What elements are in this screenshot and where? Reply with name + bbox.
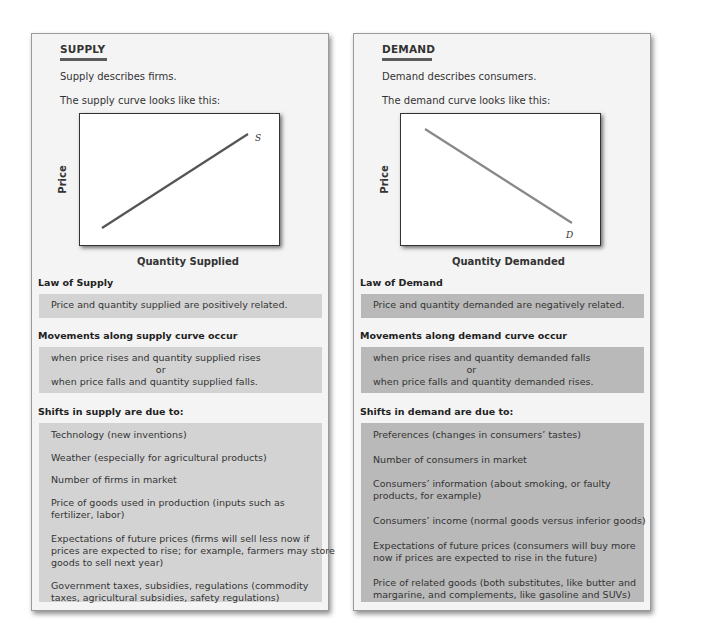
shift-item: margarine, and complements, like gasolin… xyxy=(373,589,631,600)
movement-or: or xyxy=(39,364,282,375)
demand-curve-intro: The demand curve looks like this: xyxy=(382,95,550,106)
movement-line: when price falls and quantity demanded r… xyxy=(373,376,593,387)
shift-item: Government taxes, subsidies, regulations… xyxy=(51,580,308,591)
movement-line: when price rises and quantity demanded f… xyxy=(373,352,590,363)
supply-curve-intro: The supply curve looks like this: xyxy=(60,95,220,106)
demand-shifts-heading: Shifts in demand are due to: xyxy=(360,406,513,417)
title-underline xyxy=(60,58,107,61)
supply-y-axis-label: Price xyxy=(57,165,68,193)
shift-item: now if prices are expected to rise in th… xyxy=(373,552,597,563)
demand-movements-box: when price rises and quantity demanded f… xyxy=(361,347,644,393)
shift-item: Price of goods used in production (input… xyxy=(51,497,285,508)
shift-item: goods to sell next year) xyxy=(51,557,163,568)
shift-item: Preferences (changes in consumers’ taste… xyxy=(373,429,581,440)
shift-item: Expectations of future prices (consumers… xyxy=(373,540,636,551)
shift-item: Expectations of future prices (firms wil… xyxy=(51,533,309,544)
demand-description: Demand describes consumers. xyxy=(382,71,536,82)
movement-line: when price falls and quantity supplied f… xyxy=(51,376,258,387)
shift-item: Number of consumers in market xyxy=(373,454,527,465)
demand-x-axis-label: Quantity Demanded xyxy=(452,256,565,267)
law-of-demand-box: Price and quantity demanded are negative… xyxy=(361,294,644,318)
demand-movements-heading: Movements along demand curve occur xyxy=(360,330,567,341)
law-of-demand-text: Price and quantity demanded are negative… xyxy=(373,299,624,310)
shift-item: Number of firms in market xyxy=(51,474,177,485)
demand-shifts-box: Preferences (changes in consumers’ taste… xyxy=(361,423,644,602)
shift-item: products, for example) xyxy=(373,490,481,501)
supply-curve-label: S xyxy=(255,133,261,143)
supply-shifts-box: Technology (new inventions) Weather (esp… xyxy=(39,423,322,602)
shift-item: Price of related goods (both substitutes… xyxy=(373,577,636,588)
demand-chart: D xyxy=(400,113,601,246)
title-underline xyxy=(382,58,432,61)
law-of-supply-box: Price and quantity supplied are positive… xyxy=(39,294,322,318)
shift-item: fertilizer, labor) xyxy=(51,509,124,520)
shift-item: Weather (especially for agricultural pro… xyxy=(51,452,267,463)
demand-curve-label: D xyxy=(565,230,573,240)
shift-item: Consumers’ income (normal goods versus i… xyxy=(373,515,646,526)
movement-or: or xyxy=(361,364,582,375)
movement-line: when price rises and quantity supplied r… xyxy=(51,352,261,363)
demand-panel: DEMAND Demand describes consumers. The d… xyxy=(353,33,651,611)
supply-x-axis-label: Quantity Supplied xyxy=(137,256,239,267)
law-of-supply-heading: Law of Supply xyxy=(38,277,113,288)
supply-title: SUPPLY xyxy=(60,43,105,55)
demand-y-axis-label: Price xyxy=(379,165,390,193)
shift-item: taxes, agricultural subsidies, safety re… xyxy=(51,592,279,603)
supply-chart: S xyxy=(79,113,280,246)
supply-panel: SUPPLY Supply describes firms. The suppl… xyxy=(31,33,329,611)
demand-title: DEMAND xyxy=(382,43,435,55)
law-of-demand-heading: Law of Demand xyxy=(360,277,443,288)
demand-curve-graphic: D xyxy=(401,114,602,247)
supply-curve-graphic: S xyxy=(80,114,281,247)
supply-movements-box: when price rises and quantity supplied r… xyxy=(39,347,322,393)
supply-shifts-heading: Shifts in supply are due to: xyxy=(38,406,184,417)
law-of-supply-text: Price and quantity supplied are positive… xyxy=(51,299,287,310)
shift-item: Consumers’ information (about smoking, o… xyxy=(373,478,611,489)
shift-item: Technology (new inventions) xyxy=(51,429,187,440)
shift-item: prices are expected to rise; for example… xyxy=(51,545,335,556)
supply-description: Supply describes firms. xyxy=(60,71,177,82)
supply-movements-heading: Movements along supply curve occur xyxy=(38,330,237,341)
